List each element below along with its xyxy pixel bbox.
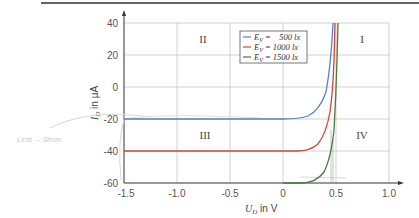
x-axis-label: UD in V <box>245 203 278 216</box>
quadrant-ii-label: II <box>199 33 207 45</box>
svg-text:1.0: 1.0 <box>382 188 396 199</box>
svg-text:-0.5: -0.5 <box>221 188 239 199</box>
svg-text:40: 40 <box>107 18 119 29</box>
svg-text:Licht → Strom: Licht → Strom <box>17 136 62 143</box>
svg-text:20: 20 <box>107 50 119 61</box>
svg-text:-60: -60 <box>104 178 119 189</box>
svg-text:-1.0: -1.0 <box>168 188 186 199</box>
quadrant-i-label: I <box>360 33 364 45</box>
x-axis-arrow-icon <box>398 181 404 185</box>
svg-text:-20: -20 <box>104 114 119 125</box>
handwritten-annotation: Licht → Strom <box>17 114 346 180</box>
svg-text:0.5: 0.5 <box>329 188 343 199</box>
y-axis-arrow-icon <box>122 10 126 16</box>
legend: EV = 500 lx EV = 1000 lx EV = 1500 lx <box>240 31 307 63</box>
svg-text:0: 0 <box>280 188 286 199</box>
iv-chart: 40 20 0 -20 -40 -60 -1.5 -1.0 -0.5 0 0.5… <box>0 0 419 218</box>
y-tick-labels: 40 20 0 -20 -40 -60 <box>104 18 119 189</box>
svg-text:-1.5: -1.5 <box>117 188 135 199</box>
quadrant-iii-label: III <box>200 129 211 141</box>
svg-text:-40: -40 <box>104 146 119 157</box>
quadrant-iv-label: IV <box>356 129 368 141</box>
x-tick-labels: -1.5 -1.0 -0.5 0 0.5 1.0 <box>117 188 396 199</box>
svg-text:0: 0 <box>112 82 118 93</box>
